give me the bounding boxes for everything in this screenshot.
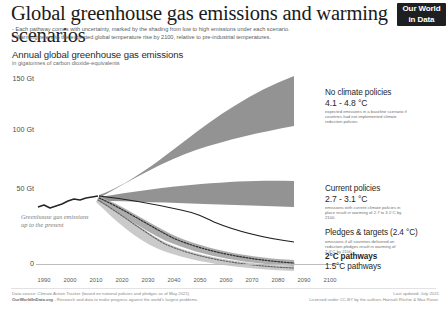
scenario-name: Pledges & targets (2.4 °C) [325,228,418,238]
historical-annotation-line-2: up to the present [21,221,89,229]
scenario-name: No climate policies [325,88,407,98]
scenario-2c-pathways[interactable]: 2°C pathways [325,252,377,262]
x-axis-baseline [36,264,341,265]
x-tick-2040: 2040 [168,277,181,283]
footer-site-link[interactable]: OurWorldInData.org [12,297,53,302]
scenario-name: Current policies [325,184,407,194]
y-tick-100: 100 Gt [8,125,34,134]
scenario-1-5c-pathways[interactable]: 1.5°C pathways [325,262,381,272]
y-tick-0: 0 [8,259,34,268]
x-tick-2090: 2090 [298,277,311,283]
scenario-description: expected emissions in a baseline scenari… [325,109,407,124]
scenario-pledges-targets[interactable]: Pledges & targets (2.4 °C) emissions if … [325,228,418,254]
scenario-temperature: 2.7 - 3.1 °C [325,194,407,204]
x-tick-2070: 2070 [246,277,259,283]
chart-page: Global greenhouse gas emissions and warm… [0,0,447,317]
scenario-description: emissions with current climate policies … [325,205,407,220]
x-tick-2080: 2080 [272,277,285,283]
scenario-temperature: 4.1 - 4.8 °C [325,98,407,108]
x-tick-1990: 1990 [38,277,51,283]
historical-annotation: Greenhouse gas emissions up to the prese… [21,213,89,228]
x-tick-2060: 2060 [220,277,233,283]
scenario-current-policies[interactable]: Current policies 2.7 - 3.1 °C emissions … [325,184,407,220]
scenario-no-climate-policies[interactable]: No climate policies 4.1 - 4.8 °C expecte… [325,88,407,124]
x-tick-2020: 2020 [116,277,129,283]
scenario-name: 2°C pathways [325,252,377,262]
x-tick-2050: 2050 [194,277,207,283]
footer-tagline: - Research and data to make progress aga… [54,297,198,302]
footer-right: Last updated: July 2021 Licensed under C… [309,291,439,303]
y-tick-150: 150 Gt [8,74,34,83]
x-tick-2100: 2100 [324,277,337,283]
x-tick-2000: 2000 [64,277,77,283]
historical-annotation-line-1: Greenhouse gas emissions [21,213,89,221]
footer-divider [11,288,436,289]
scenario-name: 1.5°C pathways [325,262,381,272]
x-tick-2030: 2030 [142,277,155,283]
footer-left: Data source: Climate Action Tracker (bas… [12,291,198,303]
y-tick-50: 50 Gt [8,184,34,193]
x-tick-2010: 2010 [90,277,103,283]
footer-license: Licensed under CC-BY by the authors Hann… [309,297,439,303]
